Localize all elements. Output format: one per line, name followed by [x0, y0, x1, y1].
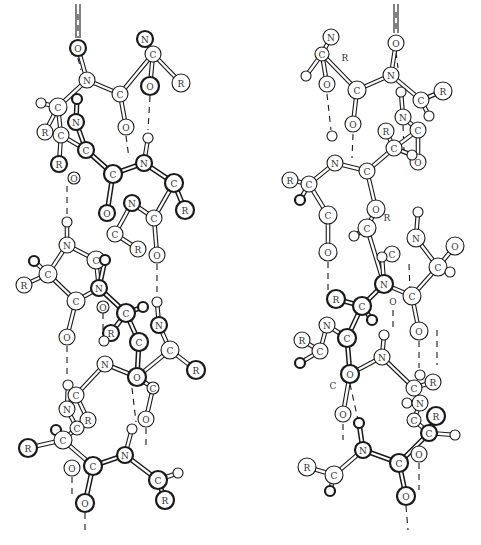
- atom-h: [377, 252, 387, 262]
- atom-label: O: [68, 464, 75, 474]
- atom-label: O: [133, 373, 140, 383]
- atom-label: R: [430, 378, 437, 388]
- atom-c: C: [301, 176, 317, 192]
- atom-label: O: [122, 123, 129, 133]
- atom-c: C: [330, 381, 337, 391]
- atom-c: C: [421, 425, 437, 441]
- atom-label: C: [426, 429, 433, 439]
- atom-label: R: [193, 366, 200, 376]
- atom-label: N: [101, 360, 109, 370]
- atom-label: C: [411, 384, 418, 394]
- atom-r: R: [294, 332, 310, 348]
- atom-label: R: [108, 329, 115, 339]
- atom-label: O: [402, 492, 409, 502]
- atom-h: [402, 398, 412, 408]
- atom-label: R: [299, 336, 306, 346]
- atom-c: C: [104, 165, 122, 183]
- hydrogen-bond: [148, 96, 150, 130]
- atom-label: N: [412, 234, 420, 244]
- atom-o: O: [319, 76, 335, 92]
- atom-o: O: [319, 243, 337, 261]
- atom-c: C: [359, 163, 375, 179]
- atom-c: C: [39, 265, 57, 283]
- atom-label: C: [73, 297, 80, 307]
- atom-o: O: [335, 406, 351, 422]
- atom-r: R: [298, 458, 316, 476]
- atom-label: C: [391, 144, 398, 154]
- atom-label: C: [55, 103, 62, 113]
- atom-label: C: [331, 471, 338, 481]
- atom-h: [138, 302, 148, 312]
- atom-n: N: [68, 114, 84, 130]
- atom-r: R: [37, 124, 53, 140]
- atom-label: C: [58, 131, 65, 141]
- atom-label: C: [364, 167, 371, 177]
- atom-r: R: [130, 241, 146, 257]
- atom-label: R: [440, 87, 447, 97]
- atom-label: N: [399, 113, 407, 123]
- atom-label: O: [451, 242, 458, 252]
- atom-label: R: [384, 213, 391, 223]
- atom-c: C: [315, 47, 329, 61]
- atom-label: N: [121, 451, 129, 461]
- atom-label: R: [162, 496, 169, 506]
- right-atoms: ONCRONCRCNCORCONCRCCORCNOOCCNOCRCONCNRCO…: [282, 29, 464, 505]
- atom-label: N: [128, 199, 136, 209]
- atom-o: O: [411, 446, 427, 462]
- atom-label: O: [324, 248, 331, 258]
- atom-o: O: [64, 460, 80, 476]
- atom-r: R: [172, 74, 190, 92]
- atom-c: C: [312, 343, 328, 359]
- atom-c: C: [165, 174, 183, 192]
- atom-o: O: [68, 172, 80, 184]
- atom-c: C: [386, 140, 402, 156]
- atom-label: N: [331, 159, 339, 169]
- atom-label: C: [151, 214, 158, 224]
- atom-label: C: [167, 346, 174, 356]
- atom-r: R: [425, 374, 441, 390]
- hydrogen-bond: [409, 264, 410, 290]
- atom-h: [100, 255, 110, 265]
- atom-label: N: [387, 71, 395, 81]
- atom-c: C: [348, 81, 366, 99]
- hydrogen-bond: [352, 134, 353, 158]
- atom-label: C: [90, 462, 97, 472]
- atom-label: R: [56, 160, 63, 170]
- atom-h: [396, 87, 406, 97]
- atom-c: C: [130, 333, 148, 351]
- atom-o: O: [141, 77, 159, 95]
- atom-label: O: [103, 209, 110, 219]
- atom-r: R: [327, 290, 345, 308]
- atom-label: O: [74, 44, 81, 54]
- atom-o: O: [446, 237, 464, 255]
- atom-r: R: [176, 201, 194, 219]
- atom-label: C: [110, 170, 117, 180]
- atom-r: R: [187, 361, 205, 379]
- atom-c: C: [406, 380, 422, 396]
- atom-label: C: [344, 334, 351, 344]
- atom-c: C: [403, 287, 421, 305]
- left-molecular-model: ONCNCORCNORCCRONCCONCRCRONCRCNCOCNROCCNO…: [16, 14, 205, 530]
- atom-c: C: [319, 206, 337, 224]
- atom-o: O: [345, 116, 361, 132]
- right-molecular-model: ONCRONCRCNCORCONCRCCORCNOOCCNOCRCONCNRCO…: [282, 12, 464, 530]
- atom-label: C: [155, 476, 162, 486]
- atom-c: C: [70, 421, 84, 435]
- atom-h: [295, 358, 305, 368]
- atom-r: R: [378, 123, 394, 139]
- atom-label: R: [42, 128, 49, 138]
- atom-label: R: [135, 245, 142, 255]
- atom-label: O: [146, 82, 153, 92]
- atom-h: [29, 256, 39, 266]
- atom-label: C: [93, 256, 100, 266]
- atom-label: C: [325, 211, 332, 221]
- atom-label: C: [354, 86, 361, 96]
- atom-c: C: [325, 466, 343, 484]
- atom-label: O: [346, 370, 353, 380]
- atom-n: N: [327, 155, 343, 171]
- atom-label: R: [85, 416, 92, 426]
- atom-label: O: [389, 297, 396, 307]
- atom-h: [415, 370, 425, 380]
- atom-c: C: [107, 226, 123, 242]
- atom-label: R: [383, 127, 390, 137]
